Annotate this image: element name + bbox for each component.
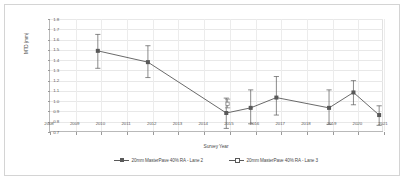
x-axis-tick-mark	[358, 132, 359, 135]
data-point-marker	[96, 49, 100, 53]
x-axis-tick-mark	[127, 132, 128, 135]
data-point-marker	[377, 113, 381, 117]
x-axis-tick-mark	[307, 132, 308, 135]
legend-label: 20mm MasterPave 40% RA - Lane 3	[247, 158, 318, 163]
data-point-marker	[249, 106, 253, 110]
x-axis-tick-mark	[204, 132, 205, 135]
chart-figure: 0.70.80.91.01.11.21.31.41.51.61.71.8 200…	[4, 4, 400, 176]
gridline-vertical	[384, 19, 385, 131]
x-axis-tick-mark	[230, 132, 231, 135]
legend-entry[interactable]: 20mm MasterPave 40% RA - Lane 2	[114, 157, 203, 163]
x-axis-tick-mark	[101, 132, 102, 135]
x-axis-tick-mark	[153, 132, 154, 135]
legend-swatch-icon	[114, 157, 129, 163]
x-axis-tick-mark	[76, 132, 77, 135]
series-group	[225, 99, 230, 108]
x-axis-tick-mark	[256, 132, 257, 135]
data-point-marker	[146, 60, 150, 64]
data-point-marker	[274, 96, 278, 100]
x-axis-tick-mark	[333, 132, 334, 135]
x-axis-tick-mark	[281, 132, 282, 135]
series-group	[95, 34, 382, 128]
chart-legend: 20mm MasterPave 40% RA - Lane 220mm Mast…	[49, 157, 383, 163]
x-axis-title: Survey Year	[49, 144, 383, 149]
legend-swatch-icon	[229, 157, 244, 163]
legend-label: 20mm MasterPave 40% RA - Lane 2	[132, 158, 203, 163]
data-point-marker	[226, 102, 229, 105]
legend-marker-icon	[120, 158, 124, 162]
data-point-marker	[327, 106, 331, 110]
legend-entry[interactable]: 20mm MasterPave 40% RA - Lane 3	[229, 157, 318, 163]
x-axis-tick-mark	[178, 132, 179, 135]
legend-marker-icon	[235, 158, 240, 163]
y-axis-title: MTD (mm)	[24, 9, 29, 79]
series-plot	[49, 19, 383, 132]
x-axis-tick-mark	[384, 132, 385, 135]
data-point-marker	[224, 111, 228, 115]
series-line	[98, 51, 379, 115]
data-point-marker	[351, 90, 355, 94]
